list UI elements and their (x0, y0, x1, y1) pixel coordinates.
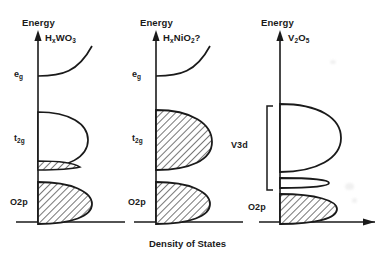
energy-axis-label: Energy (261, 18, 294, 28)
panel-formula-hxnio2: HxNiO2? (163, 33, 201, 43)
energy-axis-arrowhead (34, 30, 41, 41)
band-label-t2g: t2g (132, 134, 143, 143)
band-v3d-upper-outline (280, 104, 341, 172)
band-o2p-filled (38, 182, 92, 224)
band-label-o2p: O2p (128, 198, 146, 207)
panel-formula-v2o5: V2O5 (288, 33, 309, 43)
panel-hxwo3: Energy HxWO3 eg t2g O2p (0, 0, 125, 261)
panel-formula-hxwo3: HxWO3 (45, 33, 76, 43)
band-label-t2g: t2g (14, 134, 25, 143)
band-o2p-filled (156, 182, 210, 224)
energy-axis-arrowhead (276, 30, 283, 41)
band-o2p-filled (280, 194, 337, 224)
band-label-o2p: O2p (10, 198, 28, 207)
band-eg-curve (156, 46, 210, 76)
band-v3d-narrow-outline (280, 178, 329, 188)
energy-axis-arrowhead (152, 30, 159, 41)
band-t2g-filled (156, 110, 212, 170)
v3d-bracket (267, 106, 273, 190)
band-label-o2p: O2p (248, 203, 266, 212)
energy-axis-label: Energy (22, 18, 55, 28)
band-t2g-outline (38, 112, 88, 168)
band-label-eg: eg (14, 70, 23, 79)
band-label-v3d: V3d (231, 141, 248, 150)
panel-hxnio2: Energy HxNiO2? eg t2g O2p (118, 0, 243, 261)
band-eg-curve (38, 46, 92, 76)
dos-axis-title: Density of States (0, 238, 375, 249)
panel-v2o5: Energy V2O5 V3d O2p (243, 0, 375, 261)
density-of-states-figure: Energy HxWO3 eg t2g O2p Energy HxN (0, 0, 375, 261)
band-label-eg: eg (132, 70, 141, 79)
band-t2g-filled-sliver (38, 161, 80, 170)
dos-axis-arrowhead (363, 218, 375, 225)
energy-axis-label: Energy (140, 18, 173, 28)
